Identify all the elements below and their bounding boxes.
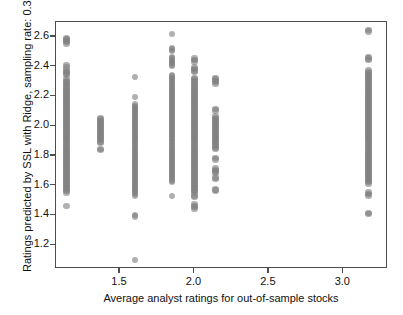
y-tick-label: 2.6 bbox=[9, 30, 49, 41]
scatter-point bbox=[132, 193, 138, 199]
scatter-point bbox=[191, 206, 197, 212]
scatter-point bbox=[191, 194, 197, 200]
scatter-point bbox=[132, 257, 138, 263]
scatter-point bbox=[212, 156, 218, 162]
scatter-point bbox=[365, 180, 371, 186]
x-tick-label: 1.5 bbox=[99, 275, 139, 287]
scatter-points-layer bbox=[56, 22, 386, 267]
scatter-plot-figure: Ratings predicted by SSL with Ridge, sam… bbox=[0, 0, 403, 315]
x-tick-mark bbox=[193, 268, 194, 273]
scatter-point bbox=[169, 179, 175, 185]
y-tick-label: 2.2 bbox=[9, 89, 49, 100]
x-axis-label: Average analyst ratings for out-of-sampl… bbox=[55, 292, 387, 305]
scatter-point bbox=[365, 211, 371, 217]
y-tick-label: 1.4 bbox=[9, 208, 49, 219]
y-tick-label: 2.4 bbox=[9, 60, 49, 71]
scatter-point bbox=[365, 192, 371, 198]
scatter-point bbox=[212, 146, 218, 152]
scatter-point bbox=[63, 189, 69, 195]
scatter-point bbox=[97, 147, 103, 153]
y-tick-label: 1.2 bbox=[9, 238, 49, 249]
y-tick-label: 2.0 bbox=[9, 119, 49, 130]
scatter-point bbox=[63, 203, 69, 209]
scatter-point bbox=[169, 31, 175, 37]
scatter-point bbox=[132, 213, 138, 219]
scatter-point bbox=[212, 81, 218, 87]
scatter-point bbox=[365, 57, 371, 63]
scatter-point bbox=[212, 176, 218, 182]
x-tick-mark bbox=[267, 268, 268, 273]
y-tick-label: 1.6 bbox=[9, 179, 49, 190]
x-tick-label: 2.5 bbox=[248, 275, 288, 287]
scatter-point bbox=[169, 63, 175, 69]
x-tick-label: 2.0 bbox=[173, 275, 213, 287]
y-tick-label: 1.8 bbox=[9, 149, 49, 160]
y-axis-label: Ratings predicted by SSL with Ridge, sam… bbox=[18, 2, 36, 272]
scatter-point bbox=[365, 28, 371, 34]
scatter-point bbox=[212, 187, 218, 193]
scatter-point bbox=[132, 94, 138, 100]
scatter-point bbox=[132, 74, 138, 80]
x-tick-label: 3.0 bbox=[322, 275, 362, 287]
scatter-point bbox=[169, 193, 175, 199]
x-tick-mark bbox=[342, 268, 343, 273]
plot-area bbox=[55, 21, 387, 268]
scatter-point bbox=[63, 40, 69, 46]
x-tick-mark bbox=[118, 268, 119, 273]
